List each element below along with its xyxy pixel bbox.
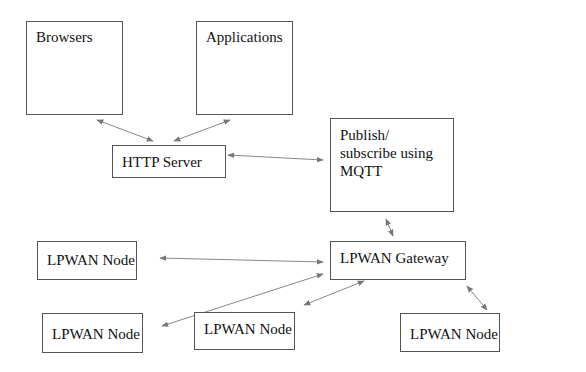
edge-node1-gateway <box>160 258 323 262</box>
lpwan-node-4-label: LPWAN Node <box>410 325 498 343</box>
edge-http-mqtt <box>228 155 323 160</box>
gateway-label: LPWAN Gateway <box>340 249 449 267</box>
applications-label: Applications <box>206 28 283 46</box>
gateway-box: LPWAN Gateway <box>330 241 466 280</box>
mqtt-box: Publish/ subscribe using MQTT <box>330 118 454 212</box>
mqtt-label: Publish/ subscribe using MQTT <box>340 126 433 180</box>
browsers-label: Browsers <box>36 28 93 46</box>
edge-browsers-http <box>97 120 153 141</box>
edge-mqtt-gateway <box>386 219 393 236</box>
applications-box: Applications <box>196 21 293 115</box>
edge-node3-gateway <box>304 281 364 305</box>
lpwan-node-2-label: LPWAN Node <box>52 325 140 343</box>
lpwan-node-3-label: LPWAN Node <box>204 320 292 338</box>
edge-node4-gateway <box>467 286 487 310</box>
lpwan-node-1-box: LPWAN Node <box>37 241 137 280</box>
lpwan-node-1-label: LPWAN Node <box>47 251 135 269</box>
http-server-box: HTTP Server <box>112 145 226 178</box>
edge-applications-http <box>174 120 230 141</box>
lpwan-node-3-box: LPWAN Node <box>194 312 295 350</box>
http-server-label: HTTP Server <box>122 153 202 171</box>
lpwan-node-2-box: LPWAN Node <box>42 313 143 353</box>
browsers-box: Browsers <box>26 21 123 115</box>
lpwan-node-4-box: LPWAN Node <box>400 313 500 352</box>
